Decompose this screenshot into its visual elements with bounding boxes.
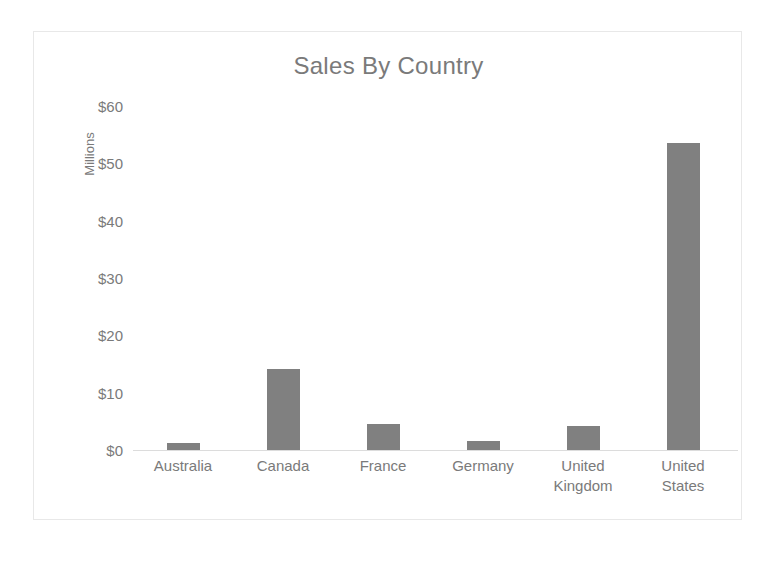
bar-slot — [333, 106, 433, 450]
bar-canada[interactable] — [267, 369, 300, 450]
x-axis-label-line: United — [533, 456, 633, 476]
x-axis-label-line: France — [333, 456, 433, 476]
bar-slot — [133, 106, 233, 450]
x-axis-label-5: UnitedStates — [633, 456, 733, 496]
bar-united-kingdom[interactable] — [567, 426, 600, 450]
bar-series — [133, 106, 733, 450]
x-axis-line — [133, 450, 738, 451]
x-axis-label-line: Canada — [233, 456, 333, 476]
bar-australia[interactable] — [167, 443, 200, 450]
bar-united-states[interactable] — [667, 143, 700, 450]
bar-slot — [433, 106, 533, 450]
y-axis-title: Millions — [64, 4, 80, 104]
y-axis-tick-0: $0 — [106, 442, 123, 459]
bar-france[interactable] — [367, 424, 400, 450]
x-axis-label-4: UnitedKingdom — [533, 456, 633, 496]
chart-title: Sales By Country — [34, 52, 743, 80]
x-axis-label-1: Canada — [233, 456, 333, 496]
y-axis-tick-5: $50 — [98, 155, 123, 172]
y-axis-tick-3: $30 — [98, 270, 123, 287]
y-axis-tick-6: $60 — [98, 98, 123, 115]
bar-slot — [533, 106, 633, 450]
x-axis-label-0: Australia — [133, 456, 233, 496]
y-axis-tick-labels: $0$10$20$30$40$50$60 — [34, 106, 129, 451]
y-axis-tick-2: $20 — [98, 327, 123, 344]
x-axis-label-line: Kingdom — [533, 476, 633, 496]
x-axis-label-2: France — [333, 456, 433, 496]
x-axis-label-line: United — [633, 456, 733, 476]
y-axis-tick-4: $40 — [98, 212, 123, 229]
x-axis-label-line: Germany — [433, 456, 533, 476]
bar-slot — [233, 106, 333, 450]
x-axis-label-line: Australia — [133, 456, 233, 476]
y-axis-tick-1: $10 — [98, 384, 123, 401]
x-axis-label-line: States — [633, 476, 733, 496]
x-axis-label-3: Germany — [433, 456, 533, 496]
x-axis-tick-labels: AustraliaCanadaFranceGermanyUnitedKingdo… — [133, 456, 733, 496]
bar-germany[interactable] — [467, 441, 500, 450]
bar-slot — [633, 106, 733, 450]
chart-container: Sales By Country Millions $0$10$20$30$40… — [33, 31, 742, 520]
